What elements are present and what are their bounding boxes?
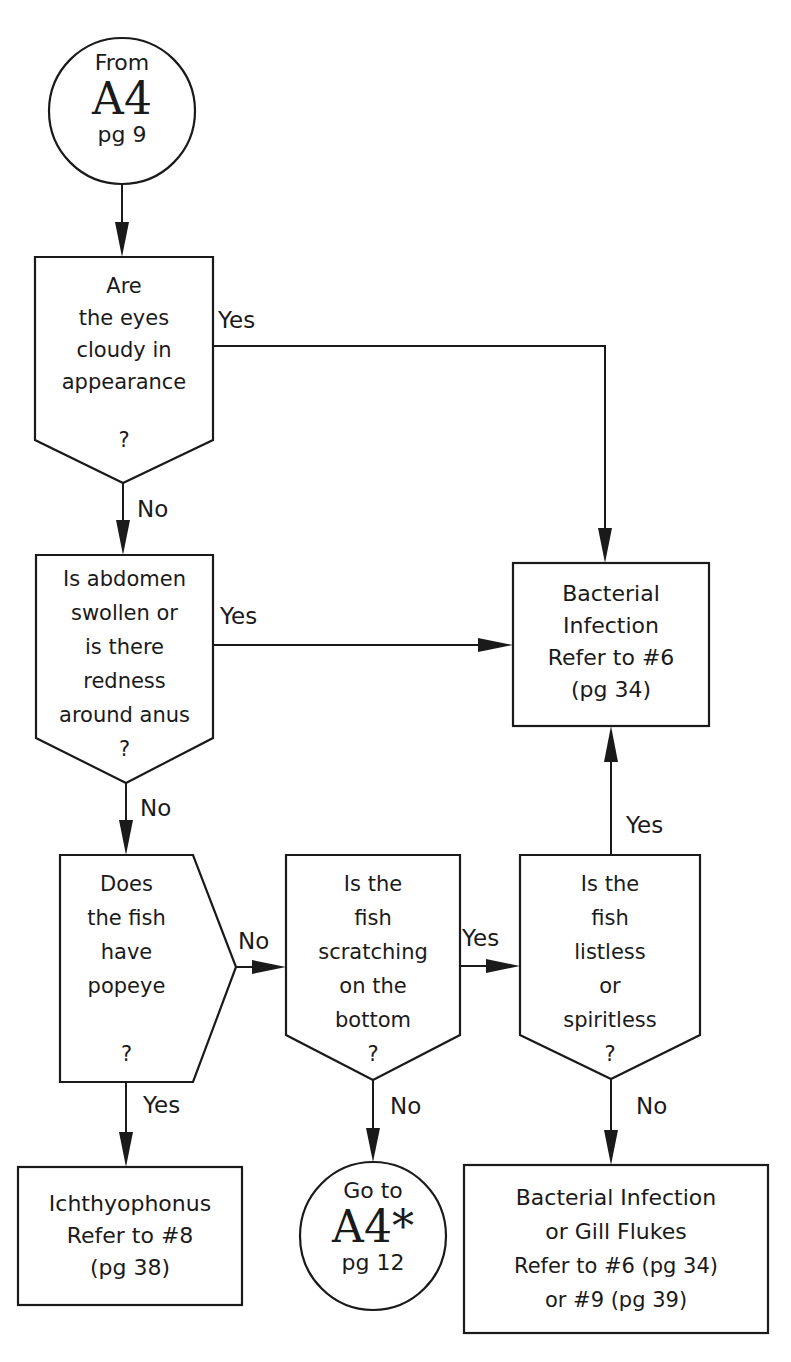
result-ichthyophonus-line: Ichthyophonus: [18, 1188, 242, 1220]
result-bacterial-line: Bacterial: [513, 578, 709, 610]
start-page-label: pg 9: [49, 122, 195, 148]
result-bacterial-line: Infection: [513, 610, 709, 642]
result-gill-flukes: Bacterial Infection or Gill Flukes Refer…: [464, 1181, 768, 1317]
decision-popeye-line: the fish: [60, 901, 193, 935]
decision-listless-line: listless: [520, 935, 700, 969]
start-connector: From A4 pg 9: [49, 50, 195, 148]
question-mark: ?: [520, 1037, 700, 1071]
decision-abdomen: Is abdomen swollen or is there redness a…: [36, 562, 213, 766]
decision-scratching-line: bottom: [286, 1003, 460, 1037]
edge-label-eyes-no: No: [137, 496, 168, 524]
result-bacterial-line: Refer to #6: [513, 642, 709, 674]
edge-label-abdomen-yes: Yes: [220, 603, 257, 631]
edge-label-listless-no: No: [636, 1093, 667, 1121]
decision-abdomen-line: swollen or: [36, 596, 213, 630]
decision-abdomen-line: Is abdomen: [36, 562, 213, 596]
decision-abdomen-line: is there: [36, 630, 213, 664]
result-ichthyophonus: Ichthyophonus Refer to #8 (pg 38): [18, 1188, 242, 1284]
goto-page-label: pg 12: [300, 1250, 446, 1276]
decision-eyes: Are the eyes cloudy in appearance ?: [35, 270, 213, 456]
result-gill-flukes-line: Bacterial Infection: [464, 1181, 768, 1215]
edge-label-popeye-no: No: [238, 928, 269, 956]
edge-label-popeye-yes: Yes: [143, 1092, 180, 1120]
result-bacterial-line: (pg 34): [513, 674, 709, 706]
edge-label-abdomen-no: No: [140, 795, 171, 823]
decision-listless: Is the fish listless or spiritless ?: [520, 867, 700, 1071]
decision-popeye-line: Does: [60, 867, 193, 901]
decision-scratching-line: on the: [286, 969, 460, 1003]
question-mark: ?: [286, 1037, 460, 1071]
decision-popeye: Does the fish have popeye ?: [60, 867, 193, 1071]
result-ichthyophonus-line: (pg 38): [18, 1252, 242, 1284]
decision-popeye-line: have: [60, 935, 193, 969]
edge-label-listless-yes: Yes: [626, 812, 663, 840]
decision-listless-line: or: [520, 969, 700, 1003]
question-mark: ?: [35, 424, 213, 456]
decision-scratching-line: scratching: [286, 935, 460, 969]
decision-abdomen-line: redness: [36, 664, 213, 698]
decision-scratching-line: fish: [286, 901, 460, 935]
start-ref-label: A4: [49, 76, 195, 122]
result-gill-flukes-line: Refer to #6 (pg 34): [464, 1249, 768, 1283]
decision-listless-line: fish: [520, 901, 700, 935]
decision-eyes-line: cloudy in: [35, 334, 213, 366]
edge-label-eyes-yes: Yes: [218, 307, 255, 335]
decision-eyes-line: appearance: [35, 366, 213, 398]
decision-eyes-line: Are: [35, 270, 213, 302]
goto-connector: Go to A4* pg 12: [300, 1178, 446, 1276]
result-gill-flukes-line: or Gill Flukes: [464, 1215, 768, 1249]
decision-abdomen-line: around anus: [36, 698, 213, 732]
decision-listless-line: spiritless: [520, 1003, 700, 1037]
goto-ref-label: A4*: [300, 1204, 446, 1250]
result-gill-flukes-line: or #9 (pg 39): [464, 1283, 768, 1317]
edge-label-scratching-no: No: [390, 1093, 421, 1121]
decision-scratching-line: Is the: [286, 867, 460, 901]
decision-eyes-line: the eyes: [35, 302, 213, 334]
decision-popeye-line: popeye: [60, 969, 193, 1003]
question-mark: ?: [36, 732, 213, 766]
decision-listless-line: Is the: [520, 867, 700, 901]
result-bacterial: Bacterial Infection Refer to #6 (pg 34): [513, 578, 709, 706]
decision-scratching: Is the fish scratching on the bottom ?: [286, 867, 460, 1071]
edge-label-scratching-yes: Yes: [462, 925, 499, 953]
question-mark: ?: [60, 1037, 193, 1071]
result-ichthyophonus-line: Refer to #8: [18, 1220, 242, 1252]
